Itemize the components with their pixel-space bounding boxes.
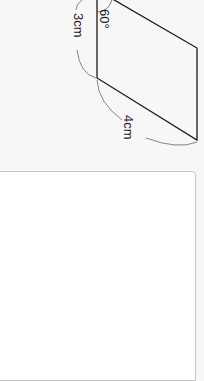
brace-4cm-right xyxy=(146,138,197,145)
parallelogram-diagram: 3cm 60° 4cm xyxy=(0,0,204,165)
brace-3cm-bottom xyxy=(77,50,96,78)
label-angle: 60° xyxy=(97,9,112,29)
brace-3cm-top xyxy=(76,0,82,10)
answer-input-box[interactable] xyxy=(0,171,196,381)
label-4cm: 4cm xyxy=(121,115,136,140)
parallelogram-figure: 3cm 60° 4cm xyxy=(0,0,204,165)
label-3cm: 3cm xyxy=(71,13,86,38)
